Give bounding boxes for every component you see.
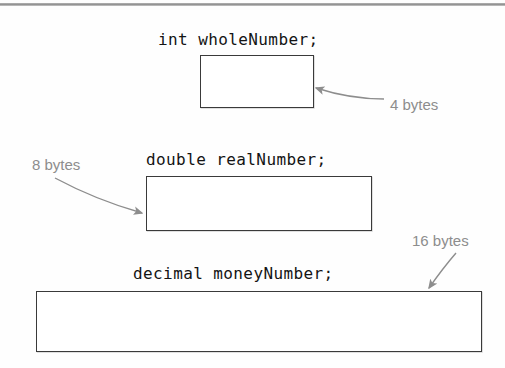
declaration-label-decimal: decimal moneyNumber;	[133, 264, 334, 283]
annotation-arrow	[429, 253, 456, 288]
memory-box-int	[200, 55, 314, 108]
memory-size-diagram: int wholeNumber; 4 bytes double realNumb…	[0, 0, 505, 368]
top-divider-rule	[0, 3, 505, 6]
declaration-label-int: int wholeNumber;	[158, 30, 319, 49]
byte-size-annotation-double: 8 bytes	[32, 156, 80, 173]
byte-size-annotation-int: 4 bytes	[390, 96, 438, 113]
byte-size-annotation-decimal: 16 bytes	[412, 232, 469, 249]
memory-box-decimal	[36, 291, 482, 352]
declaration-label-double: double realNumber;	[146, 150, 327, 169]
annotation-arrow	[55, 178, 142, 213]
memory-box-double	[146, 176, 372, 231]
annotation-arrow	[316, 88, 384, 99]
